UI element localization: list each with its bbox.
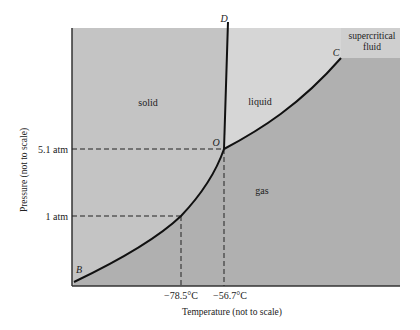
x-tick-minus-56-7: −56.7°C <box>213 290 247 301</box>
point-label-D: D <box>219 13 228 24</box>
y-tick-1-atm: 1 atm <box>46 211 69 222</box>
x-tick-minus-78-5: −78.5°C <box>164 290 198 301</box>
label-solid: solid <box>138 97 157 108</box>
point-label-O: O <box>212 137 219 148</box>
point-label-B: B <box>76 264 82 275</box>
point-label-C: C <box>333 47 340 58</box>
label-supercritical-2: fluid <box>363 42 381 52</box>
x-axis-title: Temperature (not to scale) <box>182 307 282 318</box>
label-supercritical-1: supercritical <box>349 31 396 41</box>
label-gas: gas <box>255 185 268 196</box>
label-liquid: liquid <box>248 96 271 107</box>
y-tick-5-1-atm: 5.1 atm <box>38 144 68 155</box>
y-axis-title: Pressure (not to scale) <box>19 128 30 212</box>
phase-diagram: solid liquid gas supercritical fluid D O… <box>0 0 420 330</box>
